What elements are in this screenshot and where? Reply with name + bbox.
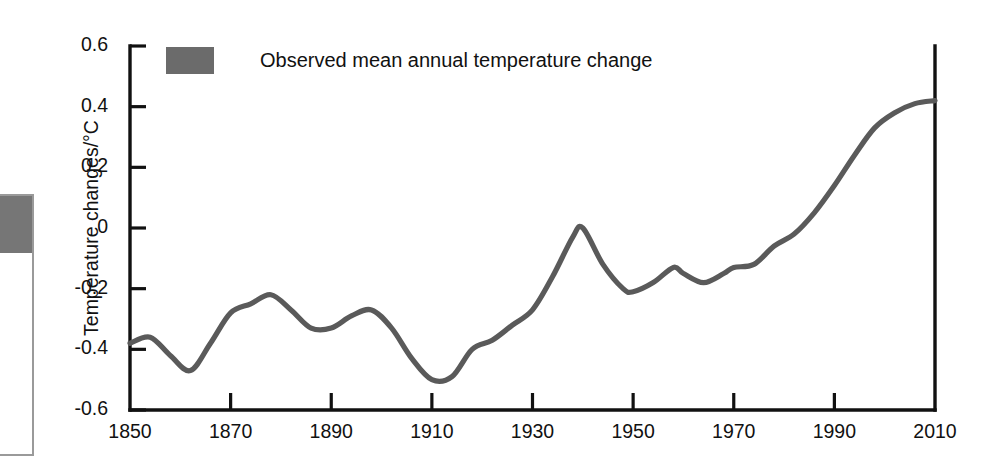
chart-legend: Observed mean annual temperature change (166, 47, 652, 74)
x-tick-label: 1930 (511, 420, 555, 442)
figure-container: 0.60.40.20-0.2-0.4-0.6 18501870189019101… (0, 0, 997, 462)
x-tick-label: 1970 (712, 420, 756, 442)
x-tick-label: 1950 (611, 420, 655, 442)
y-axis-title: Temperature changes/°C (78, 46, 104, 410)
x-tick-label: 1850 (108, 420, 152, 442)
observed-temperature-line (130, 101, 935, 382)
x-tick-label: 1870 (209, 420, 253, 442)
x-tick-label: 1990 (813, 420, 857, 442)
x-axis-tick-labels: 185018701890191019301950197019902010 (108, 420, 957, 442)
legend-label-observed: Observed mean annual temperature change (260, 49, 652, 72)
x-tick-label: 1910 (410, 420, 454, 442)
x-tick-label: 1890 (310, 420, 354, 442)
x-tick-label: 2010 (913, 420, 957, 442)
y-axis-ticks (130, 46, 146, 410)
legend-swatch-observed (166, 47, 214, 74)
x-axis-ticks (231, 393, 835, 410)
